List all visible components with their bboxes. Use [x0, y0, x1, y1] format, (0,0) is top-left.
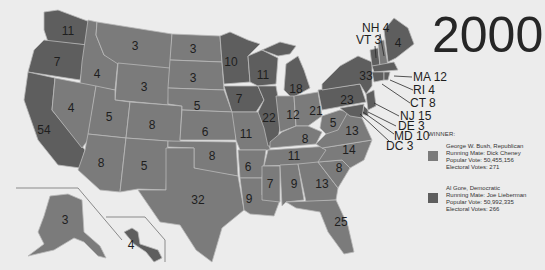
- running-mate: Running Mate: Joe Lieberman: [446, 192, 545, 199]
- ev-label-id: 4: [94, 67, 101, 81]
- ev-label-mi: 18: [289, 82, 303, 96]
- ev-label-nm: 5: [141, 159, 148, 173]
- callout-ma: MA 12: [413, 70, 447, 84]
- ev-label-co: 8: [149, 118, 156, 132]
- ev-label-ia: 7: [236, 92, 243, 106]
- ev-label-il: 22: [262, 111, 276, 125]
- ev-label-ny: 33: [359, 69, 373, 83]
- ev-label-ky: 8: [302, 132, 309, 146]
- leader-ri: [390, 80, 413, 90]
- ev-label-fl: 25: [334, 215, 348, 229]
- ev-label-al: 9: [291, 177, 298, 191]
- ev-label-ms: 7: [267, 177, 274, 191]
- ev-label-mn: 10: [224, 55, 238, 69]
- ev-label-ak: 3: [62, 213, 69, 227]
- state-ri: [384, 72, 390, 80]
- callout-vt: VT 3: [356, 33, 381, 47]
- ev-label-oh: 21: [309, 104, 323, 118]
- ev-label-nd: 3: [190, 42, 197, 56]
- ev-label-or: 7: [54, 55, 61, 69]
- callout-ct: CT 8: [410, 96, 436, 110]
- ev-label-mo: 11: [240, 127, 253, 141]
- ev-label-wi: 11: [257, 68, 270, 82]
- callout-dc: DC 3: [386, 139, 414, 153]
- ev-label-tx: 32: [191, 193, 205, 207]
- running-mate: Running Mate: Dick Cheney: [446, 150, 545, 157]
- legend: WINNER: George W. Bush, Republican Runni…: [428, 131, 545, 227]
- leader-ma: [394, 76, 412, 77]
- ev-label-wv: 5: [330, 116, 337, 130]
- ev-label-ks: 6: [202, 125, 209, 139]
- electoral-votes: Electoral Votes: 266: [446, 206, 545, 213]
- legend-entry-republican: George W. Bush, Republican Running Mate:…: [428, 143, 545, 171]
- ev-label-me: 4: [395, 36, 402, 50]
- republican-swatch-icon: [428, 151, 438, 161]
- ev-label-sc: 8: [336, 161, 343, 175]
- ev-label-la: 9: [246, 192, 253, 206]
- ev-label-hi: 4: [128, 238, 135, 252]
- ev-label-nv: 4: [68, 101, 75, 115]
- candidate-name: George W. Bush, Republican: [446, 143, 545, 150]
- ev-label-in: 12: [286, 108, 300, 122]
- democratic-swatch-icon: [428, 193, 438, 203]
- election-year-title: 2000: [432, 10, 543, 60]
- ev-label-nc: 14: [342, 143, 356, 157]
- ev-label-mt: 3: [132, 39, 139, 53]
- ev-label-pa: 23: [340, 93, 354, 107]
- ev-label-ok: 8: [209, 149, 216, 163]
- ev-label-ga: 13: [315, 177, 329, 191]
- leader-nj: [374, 103, 399, 116]
- legend-entry-democratic: Al Gore, Democratic Running Mate: Joe Li…: [428, 185, 545, 213]
- ev-label-ne: 5: [194, 99, 201, 113]
- electoral-votes: Electoral Votes: 271: [446, 164, 545, 171]
- popular-vote: Popular Vote: 50,455,156: [446, 157, 545, 164]
- callout-ri: RI 4: [413, 83, 435, 97]
- ev-label-tn: 11: [288, 149, 301, 163]
- ev-label-wa: 11: [62, 24, 75, 38]
- state-nj: [366, 90, 376, 110]
- ev-label-sd: 3: [190, 71, 197, 85]
- ev-label-ar: 6: [245, 160, 252, 174]
- ev-label-ut: 5: [106, 110, 113, 124]
- ev-label-wy: 3: [141, 80, 148, 94]
- ev-label-ca: 54: [37, 123, 51, 137]
- ev-label-az: 8: [98, 156, 105, 170]
- ev-label-va: 13: [345, 124, 359, 138]
- popular-vote: Popular Vote: 50,992,335: [446, 199, 545, 206]
- candidate-name: Al Gore, Democratic: [446, 185, 545, 192]
- state-ct: [372, 72, 384, 82]
- legend-heading: WINNER:: [428, 131, 545, 137]
